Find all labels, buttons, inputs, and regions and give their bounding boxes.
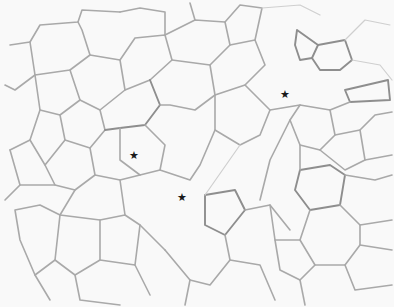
- star-marker-2: ★: [129, 150, 139, 161]
- star-marker-3: ★: [177, 192, 187, 203]
- cell-outlines: [0, 0, 394, 307]
- micrograph: ★ ★ ★: [0, 0, 394, 307]
- star-marker-1: ★: [280, 89, 290, 100]
